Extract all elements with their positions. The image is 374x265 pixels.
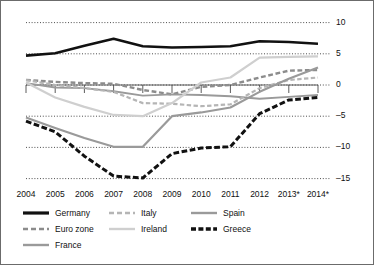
x-axis-label-2014p: 2014* [302, 189, 334, 199]
x-axis-label-2009: 2009 [156, 189, 188, 199]
legend-label: Euro zone [55, 224, 94, 234]
legend-swatch-france-icon [23, 240, 49, 250]
legend-swatch-spain-icon [191, 208, 217, 218]
y-axis-label-0: 0 [336, 79, 341, 89]
legend-label: Germany [55, 208, 90, 218]
legend-label: Spain [223, 208, 245, 218]
legend-item-spain[interactable]: Spain [191, 207, 245, 219]
y-axis-label-neg15: –15 [336, 173, 350, 183]
y-axis-label-5: 5 [336, 48, 341, 58]
legend-item-euro-zone[interactable]: Euro zone [23, 223, 94, 235]
legend-swatch-ireland-icon [109, 224, 135, 234]
line-chart-figure: 1050–5–10–152004200520062007200820092010… [1, 1, 373, 264]
legend-item-greece[interactable]: Greece [191, 223, 251, 235]
legend-item-ireland[interactable]: Ireland [109, 223, 167, 235]
y-axis-label-neg10: –10 [336, 141, 350, 151]
x-axis-label-2012: 2012 [244, 189, 276, 199]
y-axis-label-neg5: –5 [336, 110, 345, 120]
x-axis-label-2007: 2007 [98, 189, 130, 199]
x-axis-label-2004: 2004 [10, 189, 42, 199]
chart-screenshot: 1050–5–10–152004200520062007200820092010… [0, 0, 374, 265]
legend-label: Italy [141, 208, 157, 218]
x-axis-label-2005: 2005 [39, 189, 71, 199]
legend-label: Ireland [141, 224, 167, 234]
series-line-greece [26, 97, 318, 177]
legend-label: France [55, 240, 81, 250]
legend-item-italy[interactable]: Italy [109, 207, 157, 219]
x-axis-label-2011: 2011 [214, 189, 246, 199]
legend-swatch-euro-zone-icon [23, 224, 49, 234]
x-axis-label-2008: 2008 [127, 189, 159, 199]
legend-swatch-germany-icon [23, 208, 49, 218]
x-axis-label-2006: 2006 [68, 189, 100, 199]
chart-legend: GermanyEuro zoneFranceItalyIrelandSpainG… [23, 207, 343, 255]
x-axis-label-2010: 2010 [185, 189, 217, 199]
legend-item-germany[interactable]: Germany [23, 207, 90, 219]
x-axis-label-2013p: 2013* [273, 189, 305, 199]
series-line-germany [26, 39, 318, 56]
legend-swatch-italy-icon [109, 208, 135, 218]
legend-swatch-greece-icon [191, 224, 217, 234]
legend-label: Greece [223, 224, 251, 234]
y-axis-label-10: 10 [336, 17, 345, 27]
legend-item-france[interactable]: France [23, 239, 81, 251]
